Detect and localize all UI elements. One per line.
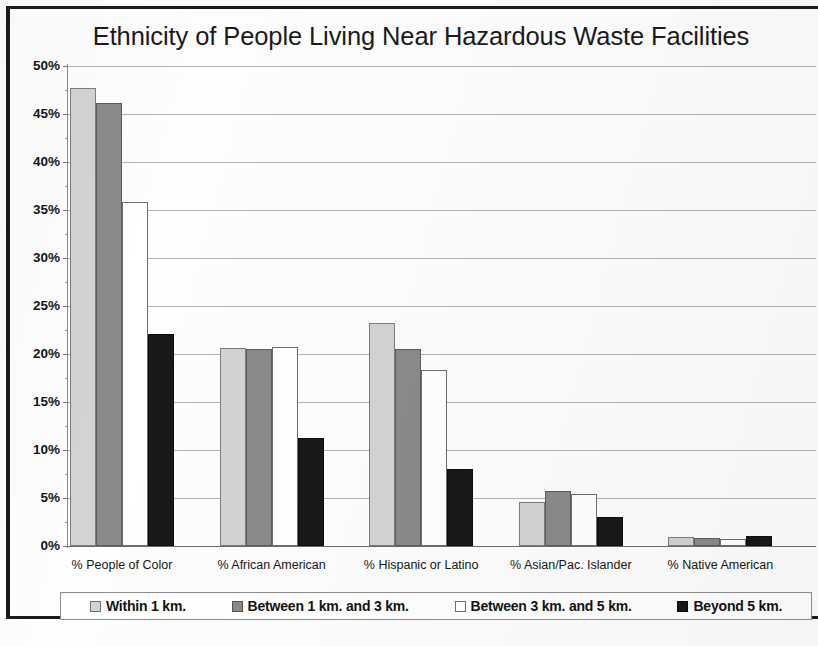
bar bbox=[720, 539, 746, 546]
bar bbox=[746, 536, 772, 546]
chart-title: Ethnicity of People Living Near Hazardou… bbox=[40, 22, 802, 51]
gridline bbox=[68, 114, 816, 115]
y-axis-label: 15% bbox=[14, 394, 60, 409]
legend-item[interactable]: Between 3 km. and 5 km. bbox=[455, 598, 632, 614]
gridline bbox=[68, 162, 816, 163]
y-axis-label: 35% bbox=[14, 202, 60, 217]
legend-swatch-icon bbox=[677, 601, 688, 612]
y-axis-label: 20% bbox=[14, 346, 60, 361]
legend-label: Beyond 5 km. bbox=[693, 598, 782, 614]
page-border-top bbox=[6, 6, 818, 9]
legend-swatch-icon bbox=[455, 601, 466, 612]
legend-label: Between 1 km. and 3 km. bbox=[248, 598, 409, 614]
legend-label: Between 3 km. and 5 km. bbox=[471, 598, 632, 614]
bar bbox=[447, 469, 473, 546]
bar bbox=[369, 323, 395, 546]
bar bbox=[571, 494, 597, 546]
bar bbox=[395, 349, 421, 546]
page-border-left bbox=[6, 6, 10, 618]
x-axis-label: % Hispanic or Latino bbox=[351, 558, 491, 572]
chart-legend: Within 1 km.Between 1 km. and 3 km.Betwe… bbox=[60, 592, 812, 620]
gridline bbox=[68, 354, 816, 355]
bar bbox=[96, 103, 122, 546]
y-axis-label: 25% bbox=[14, 298, 60, 313]
y-axis-label: 45% bbox=[14, 106, 60, 121]
gridline bbox=[68, 306, 816, 307]
gridline bbox=[68, 258, 816, 259]
bar bbox=[246, 349, 272, 546]
bar bbox=[545, 491, 571, 546]
y-axis-line bbox=[67, 64, 68, 548]
legend-item[interactable]: Beyond 5 km. bbox=[677, 598, 782, 614]
legend-label: Within 1 km. bbox=[106, 598, 186, 614]
y-axis-label: 5% bbox=[14, 490, 60, 505]
y-axis-label: 0% bbox=[14, 538, 60, 553]
legend-item[interactable]: Within 1 km. bbox=[90, 598, 186, 614]
y-axis-label: 10% bbox=[14, 442, 60, 457]
gridline bbox=[68, 210, 816, 211]
bar bbox=[220, 348, 246, 546]
bar bbox=[668, 537, 694, 546]
bar bbox=[148, 334, 174, 546]
bar bbox=[298, 438, 324, 546]
legend-item[interactable]: Between 1 km. and 3 km. bbox=[232, 598, 409, 614]
bar bbox=[694, 538, 720, 546]
legend-swatch-icon bbox=[90, 601, 101, 612]
bar bbox=[519, 502, 545, 546]
x-axis-label: % Asian/Pac. Islander bbox=[501, 558, 641, 572]
y-axis-label: 40% bbox=[14, 154, 60, 169]
chart-page: Ethnicity of People Living Near Hazardou… bbox=[0, 0, 818, 646]
legend-swatch-icon bbox=[232, 601, 243, 612]
bar bbox=[421, 370, 447, 546]
plot-area: 50%45%40%35%30%25%20%15%10%5%0% % People… bbox=[68, 66, 816, 546]
bar bbox=[122, 202, 148, 546]
bar bbox=[70, 88, 96, 546]
y-axis-label: 30% bbox=[14, 250, 60, 265]
x-axis-label: % People of Color bbox=[52, 558, 192, 572]
y-axis-label: 50% bbox=[14, 58, 60, 73]
x-axis-label: % Native American bbox=[650, 558, 790, 572]
bar bbox=[272, 347, 298, 546]
x-axis-label: % African American bbox=[202, 558, 342, 572]
gridline bbox=[68, 66, 816, 67]
bar bbox=[597, 517, 623, 546]
gridline bbox=[68, 546, 816, 547]
